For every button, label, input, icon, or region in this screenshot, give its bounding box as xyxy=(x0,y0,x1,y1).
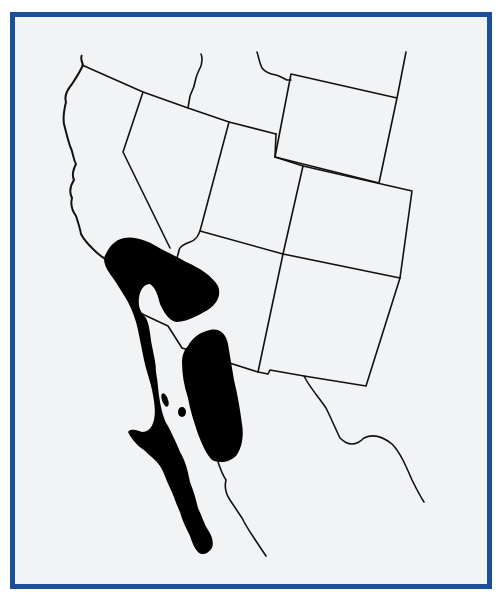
northern-state-border xyxy=(82,65,276,134)
pacific-coastline xyxy=(64,55,110,264)
island-angel-de-la-guarda xyxy=(160,392,170,407)
range-area-sonora xyxy=(182,330,243,462)
idaho-west-border xyxy=(188,54,202,108)
range-map xyxy=(0,0,500,599)
rio-grande xyxy=(304,376,424,502)
mexico-mainland-coast xyxy=(218,462,266,556)
montana-idaho-border xyxy=(257,52,291,80)
california-nevada-border xyxy=(123,92,170,248)
island-tiburon xyxy=(178,407,186,417)
colorado-border xyxy=(275,157,412,278)
utah-border xyxy=(200,134,303,254)
nevada-utah-border xyxy=(200,122,229,231)
